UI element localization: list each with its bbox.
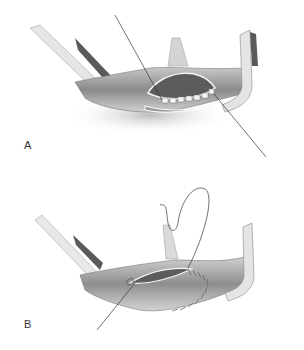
vessel	[80, 257, 250, 311]
vessel-illustration-a	[0, 0, 304, 175]
vessel-branch	[168, 38, 188, 66]
panel-b: B	[0, 175, 304, 350]
vessel-branch	[163, 225, 178, 259]
vessel-illustration-b	[0, 175, 304, 350]
panel-label-a: A	[24, 139, 31, 151]
panel-label-b: B	[24, 318, 31, 330]
panel-a: A	[0, 0, 304, 175]
